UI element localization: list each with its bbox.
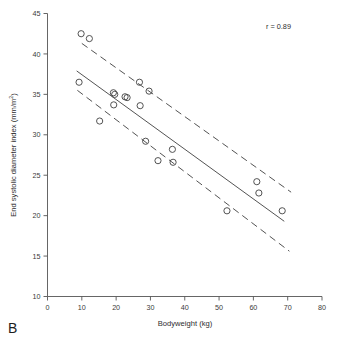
data-point-marker [279, 208, 285, 214]
data-point-marker [256, 190, 262, 196]
x-tick-label: 50 [215, 303, 223, 312]
y-tick-label: 45 [33, 9, 41, 18]
x-tick-label: 20 [112, 303, 120, 312]
y-axis-title-main: End systolic diameter index (mm/m [9, 99, 18, 217]
x-axis-title: Bodyweight (kg) [158, 319, 213, 328]
regression-fit-line [77, 71, 285, 221]
x-tick-label: 0 [46, 303, 50, 312]
data-point-marker [78, 31, 84, 37]
data-points [76, 31, 285, 214]
x-axis-ticks: 01020304050607080 [46, 297, 327, 312]
y-tick-label: 20 [33, 211, 41, 220]
data-point-marker [110, 90, 116, 96]
regression-line [77, 71, 285, 221]
y-axis-title-tail: ) [9, 93, 18, 96]
y-tick-label: 15 [33, 252, 41, 261]
confidence-limit-line-upper [82, 43, 291, 192]
data-point-marker [170, 159, 176, 165]
data-point-marker [137, 103, 143, 109]
x-tick-label: 80 [318, 303, 326, 312]
data-point-marker [76, 79, 82, 85]
confidence-limit-line-lower [77, 90, 289, 251]
x-tick-label: 70 [284, 303, 292, 312]
y-axis-ticks: 1015202530354045 [33, 9, 48, 301]
data-point-marker [86, 35, 92, 41]
data-point-marker [112, 91, 118, 97]
data-point-marker [143, 138, 149, 144]
confidence-band-lines [77, 43, 291, 251]
y-axis-title: End systolic diameter index (mm/m2) [8, 93, 18, 217]
x-tick-label: 30 [146, 303, 154, 312]
y-tick-label: 25 [33, 171, 41, 180]
svg-text:End systolic diameter index (m: End systolic diameter index (mm/m2) [8, 93, 18, 217]
data-point-marker [169, 146, 175, 152]
data-point-marker [124, 94, 130, 100]
y-tick-label: 40 [33, 50, 41, 59]
y-tick-label: 10 [33, 292, 41, 301]
data-point-marker [155, 158, 161, 164]
panel-label: B [8, 320, 17, 336]
x-tick-label: 10 [78, 303, 86, 312]
data-point-marker [97, 118, 103, 124]
figure-panel-b: 1015202530354045 01020304050607080 End s… [0, 0, 341, 343]
data-point-marker [224, 208, 230, 214]
scatter-plot: 1015202530354045 01020304050607080 End s… [0, 0, 341, 343]
y-tick-label: 30 [33, 130, 41, 139]
data-point-marker [111, 102, 117, 108]
x-tick-label: 60 [249, 303, 257, 312]
data-point-marker [254, 179, 260, 185]
y-tick-label: 35 [33, 90, 41, 99]
correlation-annotation: r = 0.89 [266, 22, 291, 31]
x-tick-label: 40 [181, 303, 189, 312]
